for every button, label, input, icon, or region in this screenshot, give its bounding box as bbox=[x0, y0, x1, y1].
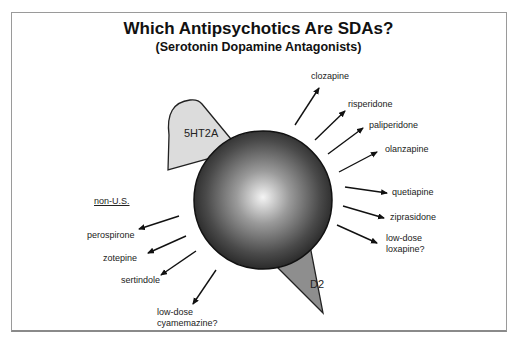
drug-label-risperidone: risperidone bbox=[348, 99, 393, 110]
drug-label-cyamemazine: low-dose cyamemazine? bbox=[157, 307, 218, 329]
drug-label-olanzapine: olanzapine bbox=[385, 144, 429, 155]
drug-label-clozapine: clozapine bbox=[311, 71, 349, 82]
drug-label-sertindole: sertindole bbox=[121, 275, 160, 286]
drug-label-quetiapine: quetiapine bbox=[392, 187, 434, 198]
drug-label-loxapine: low-dose loxapine? bbox=[386, 233, 425, 255]
drug-label-cyamemazine-line2: cyamemazine? bbox=[157, 318, 218, 329]
dopamine-receptor-label: D2 bbox=[310, 279, 324, 290]
serotonin-receptor-label: 5HT2A bbox=[184, 128, 218, 139]
drug-label-perospirone: perospirone bbox=[87, 230, 135, 241]
drug-label-loxapine-line1: low-dose bbox=[386, 233, 425, 244]
sda-diagram bbox=[0, 0, 517, 339]
drug-label-cyamemazine-line1: low-dose bbox=[157, 307, 218, 318]
drug-label-loxapine-line2: loxapine? bbox=[386, 244, 425, 255]
receptor-binding-sphere bbox=[194, 131, 332, 269]
non-us-heading: non-U.S. bbox=[94, 196, 130, 207]
drug-label-zotepine: zotepine bbox=[103, 253, 137, 264]
drug-label-paliperidone: paliperidone bbox=[369, 120, 418, 131]
drug-label-ziprasidone: ziprasidone bbox=[390, 212, 436, 223]
